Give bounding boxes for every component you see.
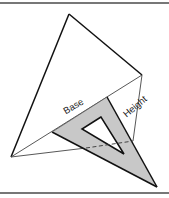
- triangle-bottom-edge: [11, 148, 86, 157]
- top-border: [0, 2, 169, 4]
- triangle-area-diagram: Base Height: [0, 0, 169, 198]
- bottom-border: [0, 192, 169, 194]
- triangle-top-edge: [69, 14, 142, 75]
- height-label: Height: [121, 93, 149, 119]
- diagram-frame: Base Height: [0, 0, 169, 198]
